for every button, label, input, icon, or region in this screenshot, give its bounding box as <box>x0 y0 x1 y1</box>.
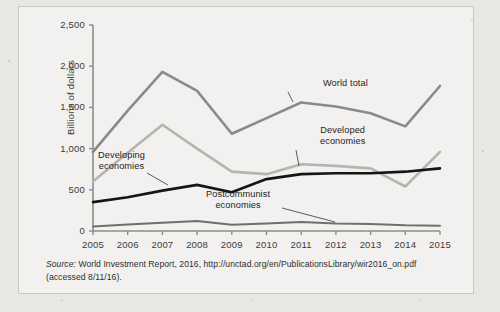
annotation-line: economies <box>215 200 260 210</box>
annotation-line: Developed <box>320 125 365 135</box>
annotation-line: World total <box>323 78 368 88</box>
figure-root: Billions of dollars 05001,0001,5002,0002… <box>0 0 500 312</box>
source-note: Source: World Investment Report, 2016, h… <box>46 258 446 283</box>
series-annotation-label: Developingeconomies <box>98 150 145 172</box>
scan-speck <box>250 300 252 301</box>
scan-speck <box>470 20 473 21</box>
y-tick-label: 2,000 <box>43 60 85 71</box>
annotation-leader-line <box>288 92 293 102</box>
series-line <box>93 221 440 226</box>
scan-speck <box>482 150 484 152</box>
annotation-leader-line <box>296 150 299 166</box>
annotation-line: Developing <box>98 150 145 160</box>
scan-speck <box>420 300 422 301</box>
y-tick-label: 2,500 <box>43 19 85 30</box>
annotation-line: Postcommunist <box>206 189 270 199</box>
series-line <box>93 125 440 187</box>
annotation-leader-line <box>282 208 335 222</box>
y-tick-label: 0 <box>43 225 85 236</box>
scan-speck <box>60 300 63 301</box>
annotation-leader-line <box>147 173 168 185</box>
source-access-date: (accessed 8/11/16). <box>46 272 122 282</box>
source-prefix: Source: <box>46 259 76 269</box>
scan-speck <box>8 60 10 62</box>
source-citation: World Investment Report, 2016, http://un… <box>76 259 417 269</box>
y-tick-label: 500 <box>43 184 85 195</box>
line-chart: Billions of dollars 05001,0001,5002,0002… <box>0 0 500 312</box>
series-annotation-label: Postcommunisteconomies <box>206 189 270 211</box>
annotation-line: economies <box>99 161 144 171</box>
annotation-line: economies <box>320 136 365 146</box>
series-annotation-label: World total <box>323 78 368 89</box>
x-tick-label: 2015 <box>420 239 460 250</box>
series-annotation-label: Developedeconomies <box>320 125 365 147</box>
y-tick-label: 1,000 <box>43 143 85 154</box>
y-tick-label: 1,500 <box>43 101 85 112</box>
